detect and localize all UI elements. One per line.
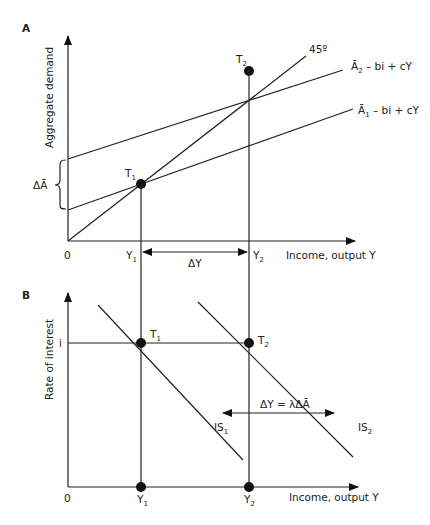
ad2-label: Ā2 – bi + cY [351, 60, 412, 75]
aggregate-demand-line-2 [68, 70, 343, 159]
panel-a: A Aggregate demand Income, output Y 0 45… [22, 22, 419, 269]
panel-a-y-axis-label: Aggregate demand [43, 47, 55, 148]
delta-a-brace [55, 160, 66, 209]
panel-b-y-axis-label: Rate of interest [43, 319, 55, 400]
panel-b-origin-label: 0 [64, 492, 71, 504]
interest-rate-label: i [59, 337, 62, 349]
is1-label: IS1 [214, 421, 228, 436]
ad1-label: Ā1 – bi + cY [358, 104, 419, 119]
is2-label: IS2 [358, 421, 372, 436]
forty-five-degree-line [68, 56, 306, 241]
delta-y-label: ΔY [188, 257, 202, 269]
t1-label-panel-a: T1 [124, 167, 136, 182]
y2-label-panel-a: Y2 [252, 249, 264, 264]
y1-point-panel-b [136, 482, 146, 492]
t2-label-panel-b: T2 [257, 334, 269, 349]
t1-label-panel-b: T1 [149, 328, 161, 343]
is-curve-1 [98, 305, 243, 460]
panel-b-x-axis-label: Income, output Y [289, 491, 379, 503]
y2-label-panel-b: Y2 [243, 493, 255, 508]
equilibrium-point-t2-panel-b [244, 338, 254, 348]
panel-b-label: B [22, 289, 30, 301]
is-curve-2 [198, 302, 353, 457]
panel-a-x-axis-label: Income, output Y [286, 249, 376, 261]
t2-label-panel-a: T2 [235, 53, 247, 68]
y2-point-panel-b [244, 482, 254, 492]
panel-b: B Rate of interest Income, output Y 0 i … [22, 289, 379, 508]
y1-label-panel-a: Y1 [125, 249, 137, 264]
aggregate-demand-line-1 [68, 109, 353, 210]
forty-five-degree-label: 45º [309, 43, 327, 55]
panel-a-origin-label: 0 [64, 249, 71, 261]
panel-a-label: A [22, 22, 31, 34]
is-shift-label: ΔY = λΔĀ [260, 398, 310, 410]
is-curve-derivation-diagram: A Aggregate demand Income, output Y 0 45… [0, 0, 430, 525]
delta-a-label: ΔĀ [33, 179, 48, 191]
y1-label-panel-b: Y1 [136, 493, 148, 508]
equilibrium-point-t1-panel-b [136, 338, 146, 348]
